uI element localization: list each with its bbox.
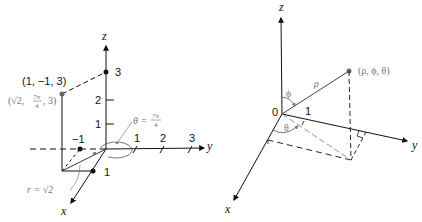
point-cylindrical-label: (√2, 7π 4 , 3) bbox=[8, 93, 56, 110]
x-axis-label: x bbox=[60, 204, 67, 218]
theta-value-label: θ = 7π 4 bbox=[133, 112, 161, 129]
neg-y-tick-label: −1 bbox=[72, 133, 85, 145]
diagram-canvas: z 3 2 1 1 2 3 −1 x 1 (1, −1, 3) bbox=[0, 0, 422, 222]
y-tick-3 bbox=[188, 146, 192, 153]
rho-label: ρ bbox=[313, 78, 319, 89]
unit-tick-mark bbox=[302, 121, 304, 125]
z-tick-label-1: 1 bbox=[95, 118, 101, 130]
phi-label: ϕ bbox=[286, 88, 291, 99]
y-tick-2 bbox=[160, 146, 164, 153]
y-axis bbox=[106, 148, 204, 149]
r-value-label: r = √2 bbox=[27, 184, 53, 195]
spherical-coordinates-figure: z y x y 0 1 ρ (ρ, ϕ, θ) ϕ θ bbox=[206, 0, 418, 216]
z-axis-label-spherical: z bbox=[278, 0, 284, 14]
x-axis bbox=[71, 149, 106, 203]
svg-text:7π: 7π bbox=[152, 112, 160, 120]
svg-text:, 3): , 3) bbox=[43, 95, 56, 107]
svg-text:(√2,: (√2, bbox=[8, 95, 24, 107]
left-figure-y-label: y bbox=[206, 139, 213, 153]
spherical-point-label: (ρ, ϕ, θ) bbox=[358, 65, 390, 77]
y-tick-label-2: 2 bbox=[160, 132, 166, 144]
point-drop-dashed bbox=[349, 71, 351, 160]
z-axis-label: z bbox=[101, 29, 107, 43]
point-cartesian-label: (1, −1, 3) bbox=[22, 75, 66, 87]
y-axis-spherical bbox=[282, 114, 407, 141]
y-tick-1 bbox=[133, 146, 137, 153]
z-tick-label-3: 3 bbox=[115, 66, 121, 78]
x-tick-label-1: 1 bbox=[104, 166, 110, 178]
x-axis-label-spherical: x bbox=[224, 202, 231, 216]
theta-leader-dot bbox=[116, 142, 118, 144]
projection-dashed-neg bbox=[62, 149, 80, 171]
svg-text:7π: 7π bbox=[33, 93, 41, 101]
projection-to-x-axis bbox=[268, 140, 351, 160]
svg-text:4: 4 bbox=[154, 121, 158, 129]
z-tick-label-2: 2 bbox=[95, 94, 101, 106]
origin-label: 0 bbox=[272, 106, 278, 118]
unit-label: 1 bbox=[305, 105, 311, 117]
y-tick-label-3: 3 bbox=[189, 132, 195, 144]
r-leader-line bbox=[70, 165, 80, 190]
projection-dashed-top bbox=[62, 72, 106, 94]
svg-text:θ =: θ = bbox=[133, 115, 147, 126]
theta-leader-line bbox=[117, 122, 132, 143]
y-tick-label-1: 1 bbox=[134, 132, 140, 144]
point-1-neg1-3 bbox=[60, 92, 65, 97]
cylindrical-example-figure: z 3 2 1 1 2 3 −1 x 1 (1, −1, 3) bbox=[8, 29, 204, 218]
projection-from-origin bbox=[282, 114, 351, 160]
svg-text:4: 4 bbox=[35, 102, 39, 110]
y-axis-label-spherical: y bbox=[411, 138, 418, 152]
right-angle-mark-y bbox=[357, 131, 363, 138]
theta-label-spherical: θ bbox=[284, 122, 289, 133]
x-axis-spherical bbox=[234, 114, 282, 200]
z-axis-spherical bbox=[281, 18, 282, 114]
